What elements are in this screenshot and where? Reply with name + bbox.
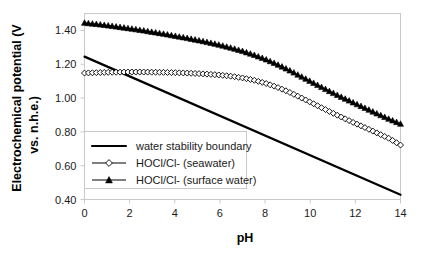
y-tick-label: 0.60	[55, 160, 76, 172]
x-tick-label: 8	[262, 207, 268, 219]
x-tick-label: 2	[127, 207, 133, 219]
y-tick-label: 0.40	[55, 194, 76, 206]
y-tick-label: 1.40	[55, 24, 76, 36]
x-tick-label: 4	[172, 207, 178, 219]
chart-figure: 0.400.600.801.001.201.40 02468101214 wat…	[0, 0, 429, 256]
x-tick-label: 6	[217, 207, 223, 219]
legend-label: water stability boundary	[135, 140, 252, 152]
electrochemical-potential-chart: 0.400.600.801.001.201.40 02468101214 wat…	[0, 0, 429, 256]
x-tick-label: 14	[394, 207, 406, 219]
x-axis-title: pH	[237, 231, 254, 245]
legend-label: HOCl/Cl- (surface water)	[136, 174, 256, 186]
y-tick-label: 1.00	[55, 92, 76, 104]
y-tick-label: 1.20	[55, 58, 76, 70]
x-tick-label: 12	[349, 207, 361, 219]
y-axis-title-line-1: Electrochemical potential (V	[10, 24, 24, 192]
x-tick-label: 10	[304, 207, 316, 219]
chart-legend: water stability boundaryHOCl/Cl- (seawat…	[85, 132, 257, 189]
y-axis-title-line-2: vs. n.h.e.)	[27, 96, 41, 154]
legend-label: HOCl/Cl- (seawater)	[136, 157, 235, 169]
y-tick-label: 0.80	[55, 126, 76, 138]
x-tick-label: 0	[81, 207, 87, 219]
